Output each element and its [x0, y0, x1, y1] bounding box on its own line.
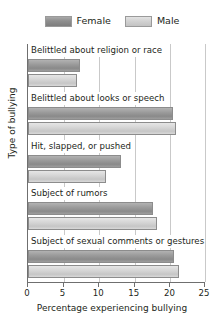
bar-female-1[interactable]: [28, 107, 173, 120]
bar-male-0[interactable]: [28, 74, 77, 87]
legend-swatch-female-icon: [45, 16, 72, 27]
x-tick-mark-0: [27, 283, 28, 287]
legend-entry-male[interactable]: Male: [125, 16, 180, 27]
bullying-bar-chart: Female Male Type of bullying Belittled a…: [0, 0, 224, 323]
x-axis-title: Percentage experiencing bullying: [0, 303, 224, 313]
category-label-3: Subject of rumors: [30, 187, 109, 200]
legend-label-female: Female: [77, 16, 111, 26]
bar-male-1[interactable]: [28, 122, 176, 135]
y-axis-title: Type of bullying: [7, 48, 17, 198]
x-tick-label-2: 10: [86, 288, 110, 298]
legend-swatch-male-icon: [125, 16, 152, 27]
bar-group-0: Belittled about religion or race: [28, 44, 205, 92]
bar-group-2: Hit, slapped, or pushed: [28, 140, 205, 188]
bar-group-3: Subject of rumors: [28, 187, 205, 235]
bar-female-4[interactable]: [28, 250, 174, 263]
category-label-2: Hit, slapped, or pushed: [30, 140, 132, 153]
x-tick-label-5: 25: [192, 288, 216, 298]
plot-area: Belittled about religion or race Belittl…: [27, 44, 205, 283]
bar-male-3[interactable]: [28, 217, 157, 230]
x-tick-label-3: 15: [122, 288, 146, 298]
bar-female-3[interactable]: [28, 202, 153, 215]
chart-legend: Female Male: [0, 12, 224, 30]
bar-group-1: Belittled about looks or speech: [28, 92, 205, 140]
x-tick-label-1: 5: [51, 288, 75, 298]
x-tick-mark-3: [134, 283, 135, 287]
x-tick-mark-4: [169, 283, 170, 287]
gridline-25: [205, 44, 206, 282]
bar-male-4[interactable]: [28, 265, 179, 278]
bar-female-0[interactable]: [28, 59, 80, 72]
legend-label-male: Male: [157, 16, 180, 26]
x-tick-label-0: 0: [15, 288, 39, 298]
x-tick-mark-5: [204, 283, 205, 287]
bar-group-4: Subject of sexual comments or gestures: [28, 235, 205, 283]
bar-female-2[interactable]: [28, 155, 121, 168]
bar-male-2[interactable]: [28, 170, 106, 183]
category-label-0: Belittled about religion or race: [30, 44, 163, 57]
legend-entry-female[interactable]: Female: [45, 16, 111, 27]
category-label-1: Belittled about looks or speech: [30, 92, 165, 105]
category-label-4: Subject of sexual comments or gestures: [30, 235, 205, 248]
x-tick-mark-1: [63, 283, 64, 287]
x-tick-label-4: 20: [157, 288, 181, 298]
x-tick-mark-2: [98, 283, 99, 287]
